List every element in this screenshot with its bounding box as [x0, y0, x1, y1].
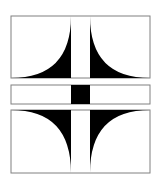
bottom-panel-frame — [11, 110, 150, 173]
figure-canvas — [0, 0, 160, 191]
top-panel — [11, 16, 150, 78]
middle-strip — [11, 85, 150, 104]
top-panel-frame — [11, 16, 150, 78]
center-square — [71, 85, 90, 104]
bottom-panel — [11, 110, 150, 173]
